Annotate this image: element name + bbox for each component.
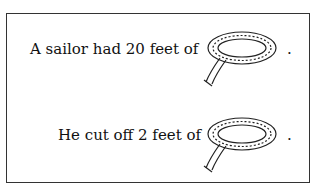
rope-icon xyxy=(200,108,280,174)
period: . xyxy=(287,126,292,144)
problem-line-1: A sailor had 20 feet of xyxy=(30,40,198,58)
rope-icon xyxy=(200,22,280,88)
period: . xyxy=(287,40,292,58)
problem-line-2: He cut off 2 feet of xyxy=(58,126,201,144)
